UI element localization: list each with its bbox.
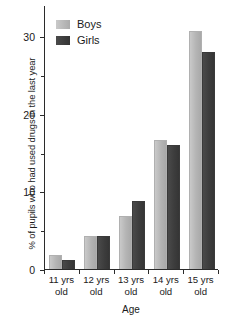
x-axis-category-label: 11 yrsold [44,274,79,297]
x-label-line1: 14 yrs [148,274,183,286]
y-tick-minor [41,154,44,155]
x-label-line2: old [114,286,149,298]
x-label-line1: 13 yrs [114,274,149,286]
x-axis-category-label: 15 yrsold [183,274,218,297]
x-axis-category-label: 14 yrsold [148,274,183,297]
x-label-line1: 12 yrs [79,274,114,286]
x-label-line1: 11 yrs [44,274,79,286]
bar-boys [49,255,62,269]
bar-girls [132,201,145,269]
x-axis-title: Age [44,304,218,315]
y-tick-label: 20 [23,109,35,121]
y-tick-label: 30 [23,31,35,43]
y-tick-label: 0 [29,264,35,276]
bar-boys [84,236,97,269]
x-axis-category-label: 13 yrsold [114,274,149,297]
x-label-line2: old [148,286,183,298]
bars-layer [45,6,218,269]
bar-girls [202,52,215,269]
bar-girls [62,260,75,269]
bar-group [184,6,219,269]
x-label-line1: 15 yrs [183,274,218,286]
bar-chart: % of pupils who had used drugs in the la… [0,0,226,326]
bar-boys [189,31,202,269]
bar-group [80,6,115,269]
plot-area: 0102030 [44,6,218,270]
x-label-line2: old [44,286,79,298]
x-axis-category-label: 12 yrsold [79,274,114,297]
x-tick [218,270,219,274]
bar-boys [119,216,132,269]
x-axis-line [44,269,218,270]
x-label-line2: old [183,286,218,298]
bar-group [115,6,150,269]
x-axis-labels: 11 yrsold12 yrsold13 yrsold14 yrsold15 y… [44,274,218,304]
bar-girls [97,236,110,269]
y-tick-label: 10 [23,186,35,198]
y-tick-minor [41,231,44,232]
bar-group [45,6,80,269]
bar-boys [154,140,167,269]
bar-girls [167,145,180,269]
x-label-line2: old [79,286,114,298]
bar-group [149,6,184,269]
y-tick-minor [41,76,44,77]
y-axis-title: % of pupils who had used drugs in the la… [26,29,37,279]
